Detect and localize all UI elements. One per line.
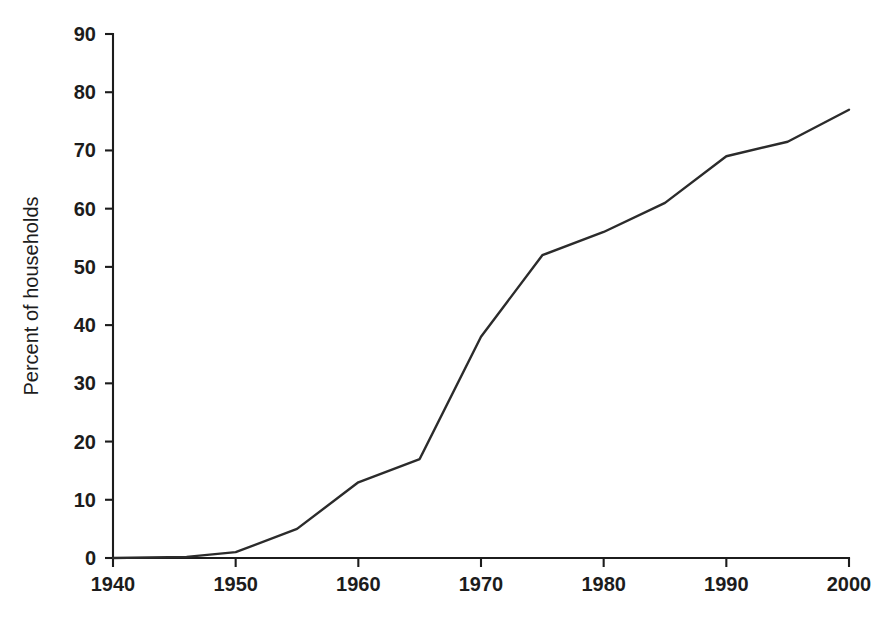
y-tick-label: 90 <box>74 23 96 45</box>
y-tick-label: 60 <box>74 198 96 220</box>
data-series-line <box>113 110 849 558</box>
x-tick-label: 1990 <box>704 573 749 595</box>
y-tick-label: 0 <box>85 547 96 569</box>
y-axis-ticks: 0102030405060708090 <box>74 23 113 569</box>
y-tick-label: 10 <box>74 489 96 511</box>
y-tick-label: 50 <box>74 256 96 278</box>
x-tick-label: 1960 <box>336 573 381 595</box>
y-tick-label: 30 <box>74 372 96 394</box>
x-tick-label: 1940 <box>91 573 136 595</box>
x-tick-label: 1980 <box>581 573 626 595</box>
y-tick-label: 20 <box>74 431 96 453</box>
y-tick-label: 80 <box>74 81 96 103</box>
y-tick-label: 40 <box>74 314 96 336</box>
x-tick-label: 1950 <box>213 573 258 595</box>
x-tick-label: 1970 <box>459 573 504 595</box>
y-axis-title: Percent of households <box>20 196 42 395</box>
chart-figure: Percent of households 010203040506070809… <box>0 0 895 631</box>
x-tick-label: 2000 <box>827 573 872 595</box>
x-axis-ticks: 1940195019601970198019902000 <box>91 558 872 595</box>
line-chart: Percent of households 010203040506070809… <box>0 0 895 631</box>
y-tick-label: 70 <box>74 139 96 161</box>
